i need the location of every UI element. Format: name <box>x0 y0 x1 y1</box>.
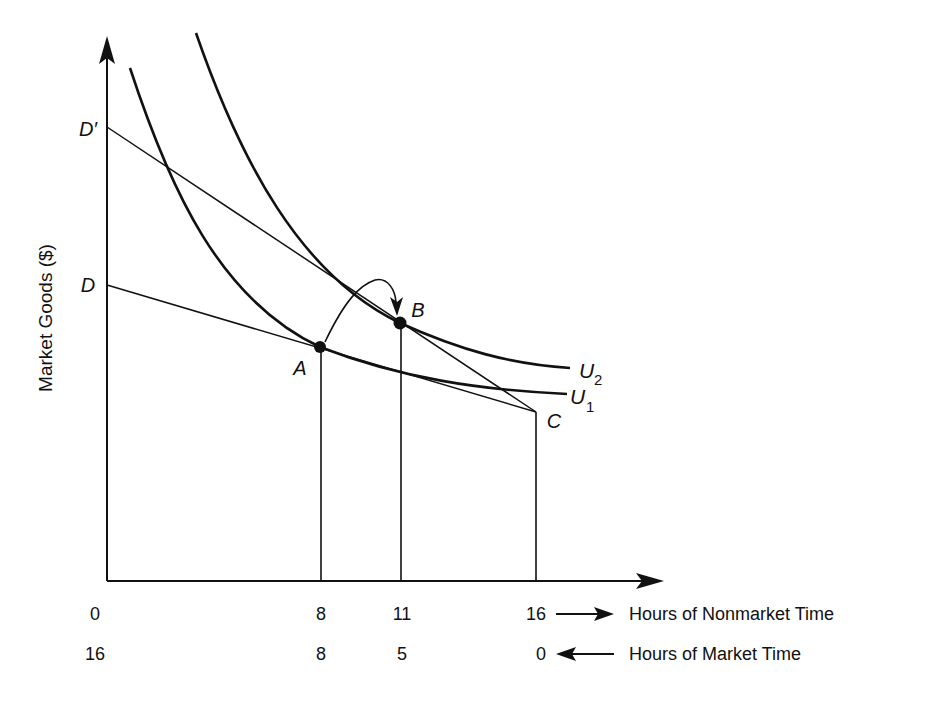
indifference-curve-U1 <box>130 68 567 394</box>
y-axis-label: Market Goods ($) <box>35 244 56 392</box>
label-U1: U 1 <box>570 385 594 415</box>
x-axis <box>107 573 664 589</box>
svg-text:2: 2 <box>594 371 602 388</box>
labor-leisure-chart: Market Goods ($) D′ D A B C U 2 U 1 0 8 … <box>0 0 925 702</box>
svg-text:16: 16 <box>526 604 546 624</box>
nonmarket-axis-title: Hours of Nonmarket Time <box>629 604 834 624</box>
svg-text:1: 1 <box>586 398 594 415</box>
point-A <box>314 341 326 353</box>
svg-text:16: 16 <box>85 644 105 664</box>
svg-text:0: 0 <box>90 604 100 624</box>
svg-text:8: 8 <box>316 604 326 624</box>
y-axis <box>99 36 115 581</box>
point-B <box>394 317 407 330</box>
svg-text:0: 0 <box>536 644 546 664</box>
market-axis-title: Hours of Market Time <box>629 644 801 664</box>
label-A: A <box>292 357 306 379</box>
svg-text:5: 5 <box>397 644 407 664</box>
nonmarket-tick-row: 0 8 11 16 Hours of Nonmarket Time <box>90 604 834 624</box>
market-tick-row: 16 8 5 0 Hours of Market Time <box>85 644 801 664</box>
svg-text:U: U <box>579 359 595 382</box>
svg-text:11: 11 <box>393 604 412 624</box>
indifference-curve-U2 <box>196 33 570 368</box>
label-D-prime: D′ <box>79 118 98 140</box>
svg-text:U: U <box>570 385 586 408</box>
shift-arrow <box>325 280 396 342</box>
label-U2: U 2 <box>579 359 602 388</box>
svg-text:8: 8 <box>316 644 326 664</box>
label-C: C <box>547 410 562 432</box>
label-D: D <box>81 274 95 296</box>
label-B: B <box>411 299 424 321</box>
